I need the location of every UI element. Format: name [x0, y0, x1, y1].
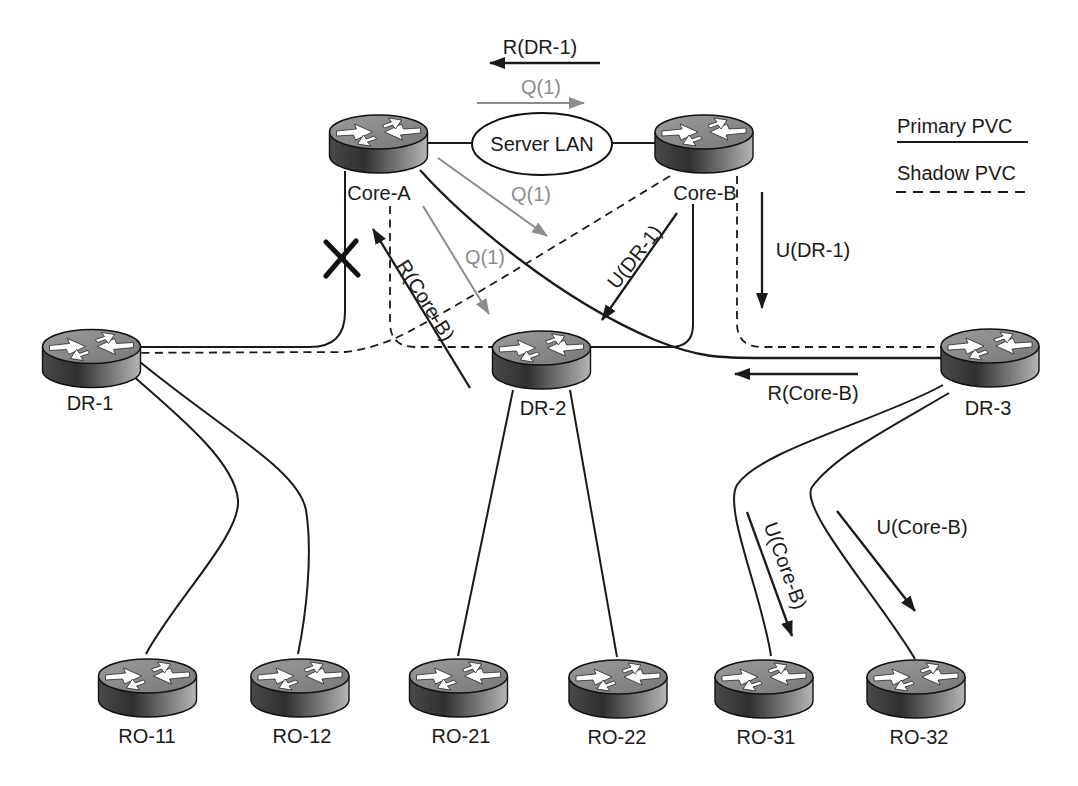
- legend-shadow-label: Shadow PVC: [897, 162, 1016, 184]
- node-label-ro-11: RO-11: [118, 725, 175, 747]
- legend-primary-label: Primary PVC: [897, 115, 1013, 137]
- router-icon-core-b: [655, 115, 753, 173]
- router-icon-core-a: [330, 115, 428, 173]
- link-dr1-ro11: [133, 376, 238, 654]
- node-label-dr-3: DR-3: [965, 397, 1012, 419]
- annotation-r-core-b-left: R(Core-B): [767, 382, 858, 404]
- node-label-ro-32: RO-32: [890, 726, 949, 748]
- annotation-u-dr1-vert: U(DR-1): [776, 239, 850, 261]
- node-label-dr-2: DR-2: [520, 397, 567, 419]
- router-icon-dr-2: [493, 331, 591, 389]
- node-label-core-a: Core-A: [347, 182, 411, 204]
- network-diagram-canvas: Server LAN Core-A Core-B DR-1 DR-2 DR-3 …: [0, 0, 1078, 786]
- link-core-a-dr1-primary: [100, 171, 345, 347]
- link-dr2-ro22: [570, 390, 617, 657]
- annotation-q1-low: Q(1): [465, 246, 505, 268]
- router-icon-dr-3: [941, 329, 1039, 387]
- router-icon-ro-32: [867, 660, 965, 718]
- link-dr1-ro12: [140, 362, 309, 654]
- node-label-ro-12: RO-12: [273, 725, 332, 747]
- router-icon-ro-12: [251, 659, 349, 717]
- link-core-b-dr3-shadow: [737, 176, 960, 347]
- link-dr2-ro21: [458, 390, 513, 656]
- router-icon-dr-1: [43, 330, 141, 388]
- node-label-ro-21: RO-21: [432, 725, 491, 747]
- server-lan-label: Server LAN: [490, 133, 593, 155]
- node-label-dr-1: DR-1: [67, 392, 114, 414]
- router-icon-ro-11: [99, 659, 197, 717]
- router-icon-ro-31: [715, 660, 813, 718]
- node-label-ro-31: RO-31: [737, 726, 796, 748]
- annotation-u-core-b-2: U(Core-B): [876, 516, 967, 538]
- annotation-q1-mid: Q(1): [511, 183, 551, 205]
- legend: Primary PVC Shadow PVC: [896, 115, 1028, 192]
- server-lan-node: Server LAN: [472, 113, 612, 175]
- node-label-core-b: Core-B: [673, 182, 736, 204]
- node-label-ro-22: RO-22: [588, 726, 647, 748]
- annotation-q1-top: Q(1): [521, 76, 561, 98]
- router-icon-ro-22: [569, 660, 667, 718]
- annotation-r-core-b-up: R(Core-B): [392, 256, 459, 345]
- topology-svg: Server LAN Core-A Core-B DR-1 DR-2 DR-3 …: [0, 0, 1078, 786]
- annotation-u-dr1-diag: U(DR-1): [603, 221, 666, 293]
- annotation-r-dr1-top: R(DR-1): [503, 36, 577, 58]
- router-icon-ro-21: [410, 659, 508, 717]
- failure-x-icon: [326, 241, 358, 276]
